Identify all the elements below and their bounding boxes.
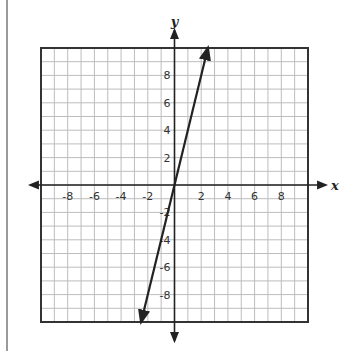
x-tick-label: 6 xyxy=(251,190,258,203)
y-axis-label: y xyxy=(170,14,180,29)
y-tick-label: -6 xyxy=(160,261,171,274)
coordinate-plane: -8-6-4-224688642-2-4-6-8 x y xyxy=(0,0,350,351)
y-tick-label: 8 xyxy=(164,69,171,82)
x-tick-label: -2 xyxy=(142,190,153,203)
x-tick-label: -6 xyxy=(89,190,100,203)
y-tick-label: 4 xyxy=(164,124,171,137)
x-tick-label: 2 xyxy=(198,190,205,203)
y-tick-label: 6 xyxy=(164,97,171,110)
x-tick-label: 4 xyxy=(224,190,231,203)
x-axis-label: x xyxy=(330,178,339,193)
x-tick-label: -4 xyxy=(116,190,127,203)
x-tick-label: 8 xyxy=(278,190,285,203)
x-tick-label: -8 xyxy=(62,190,73,203)
y-tick-label: 2 xyxy=(164,152,171,165)
y-tick-label: -8 xyxy=(160,289,171,302)
